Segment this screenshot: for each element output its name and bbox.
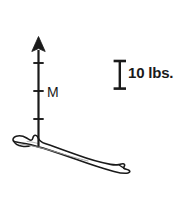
scale-bar [114,61,126,89]
force-vector-m [32,37,45,147]
figure-root: M 10 lbs. [0,0,183,204]
clavicle-bone [13,135,130,173]
clavicle-outline [13,135,130,173]
clavicle-force-diagram [0,0,183,204]
force-vector-label: M [47,85,59,99]
force-vector-arrowhead [32,37,45,52]
scale-bar-label: 10 lbs. [128,65,173,80]
